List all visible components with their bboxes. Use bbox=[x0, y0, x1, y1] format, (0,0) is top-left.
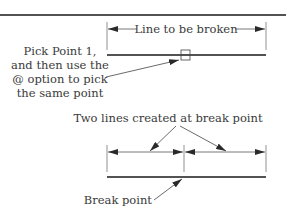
two-lines-label: Two lines created at break point bbox=[73, 111, 262, 125]
callout-line-4: the same point bbox=[17, 86, 104, 100]
break-point-label: Break point bbox=[84, 193, 153, 207]
line-to-be-broken-label: Line to be broken bbox=[134, 22, 238, 36]
callout-line-1: Pick Point 1, bbox=[23, 44, 96, 58]
top-section: Line to be broken Pick Point 1, and then… bbox=[11, 22, 266, 100]
bottom-section: Two lines created at break point Break p… bbox=[73, 111, 266, 207]
break-command-diagram: Line to be broken Pick Point 1, and then… bbox=[0, 0, 286, 215]
callout-arrow bbox=[106, 60, 179, 77]
break-point-arrow bbox=[154, 179, 182, 200]
callout-line-2: and then use the bbox=[11, 58, 109, 72]
label-pointer-right bbox=[180, 126, 226, 151]
callout-line-3: @ option to pick bbox=[12, 72, 108, 86]
label-pointer-left bbox=[150, 126, 176, 151]
